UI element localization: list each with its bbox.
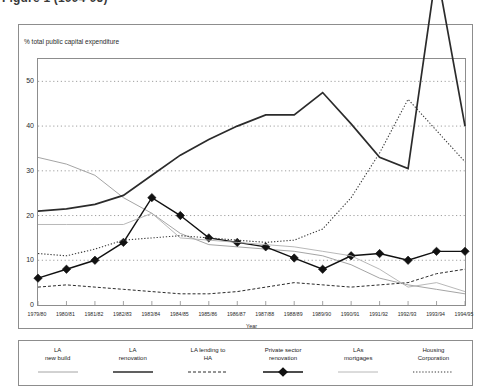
- plot-area: [37, 58, 466, 306]
- x-axis-tick-labels: Year 1979/801980/811981/821982/831983/84…: [37, 311, 466, 323]
- chart-plot-svg: [38, 59, 465, 305]
- series-marker-3-12: [375, 249, 383, 257]
- x-tick-label-5: 1984/85: [170, 311, 189, 317]
- series-line-3: [38, 198, 465, 279]
- series-line-2: [38, 269, 465, 294]
- legend-swatch-la-lending-to-ha: [186, 367, 230, 377]
- x-tick-label-7: 1986/87: [227, 311, 246, 317]
- x-axis-title: Year: [37, 323, 466, 329]
- x-tick-label-14: 1993/94: [426, 311, 445, 317]
- series-marker-3-13: [404, 256, 412, 264]
- legend-item-3[interactable]: Private sector renovation: [246, 342, 321, 377]
- y-axis-tick-labels: 01020304050: [12, 58, 34, 306]
- series-marker-3-9: [290, 254, 298, 262]
- legend-item-label: LA new build: [45, 346, 70, 362]
- chart-legend: LA new buildLA renovationLA lending to H…: [20, 342, 471, 384]
- x-tick-label-6: 1985/86: [198, 311, 217, 317]
- x-tick-label-2: 1981/82: [85, 311, 104, 317]
- legend-item-label: LA lending to HA: [191, 346, 226, 362]
- x-tick-label-9: 1988/89: [284, 311, 303, 317]
- x-tick-label-0: 1979/80: [28, 311, 47, 317]
- legend-item-0[interactable]: LA new build: [20, 342, 95, 377]
- legend-item-label: LAs mortgages: [344, 346, 372, 362]
- x-tick-label-1: 1980/81: [56, 311, 75, 317]
- x-tick-label-8: 1987/88: [255, 311, 274, 317]
- legend-item-1[interactable]: LA renovation: [95, 342, 170, 377]
- legend-item-label: Housing Corporation: [418, 346, 449, 362]
- legend-item-5[interactable]: Housing Corporation: [396, 342, 471, 377]
- y-tick-label-10: 10: [14, 256, 34, 263]
- series-marker-3-14: [432, 247, 440, 255]
- y-tick-label-20: 20: [14, 211, 34, 218]
- series-marker-3-8: [262, 243, 270, 251]
- legend-item-label: LA renovation: [119, 346, 147, 362]
- x-tick-label-10: 1989/90: [312, 311, 331, 317]
- series-line-5: [38, 99, 465, 256]
- legend-swatch-housing-corporation: [411, 367, 455, 377]
- legend-swatch-private-sector-renovation: [261, 367, 305, 377]
- series-marker-3-4: [148, 193, 156, 201]
- y-axis-title: % total public capital expenditure: [24, 38, 119, 45]
- series-marker-3-10: [318, 265, 326, 273]
- series-line-4: [38, 213, 465, 291]
- y-tick-label-30: 30: [14, 166, 34, 173]
- x-tick-label-3: 1982/83: [113, 311, 132, 317]
- chart-page: Figure 1 (1994-95) % total public capita…: [0, 0, 492, 390]
- legend-swatch-la-renovation: [111, 367, 155, 377]
- x-tick-label-13: 1992/93: [398, 311, 417, 317]
- x-tick-label-12: 1991/92: [369, 311, 388, 317]
- legend-swatch-la-new-build: [36, 367, 80, 377]
- y-tick-label-50: 50: [14, 77, 34, 84]
- x-tick-label-4: 1983/84: [141, 311, 160, 317]
- series-marker-3-2: [91, 256, 99, 264]
- y-tick-label-0: 0: [14, 301, 34, 308]
- legend-item-2[interactable]: LA lending to HA: [170, 342, 245, 377]
- legend-item-label: Private sector renovation: [265, 346, 302, 362]
- y-tick-label-40: 40: [14, 122, 34, 129]
- series-line-0: [38, 157, 465, 293]
- x-tick-label-15: 1994/95: [455, 311, 474, 317]
- figure-caption: Figure 1 (1994-95): [2, 0, 108, 5]
- legend-swatch-las-mortgages: [336, 367, 380, 377]
- legend-item-4[interactable]: LAs mortgages: [321, 342, 396, 377]
- x-tick-label-11: 1990/91: [341, 311, 360, 317]
- series-marker-3-1: [62, 265, 70, 273]
